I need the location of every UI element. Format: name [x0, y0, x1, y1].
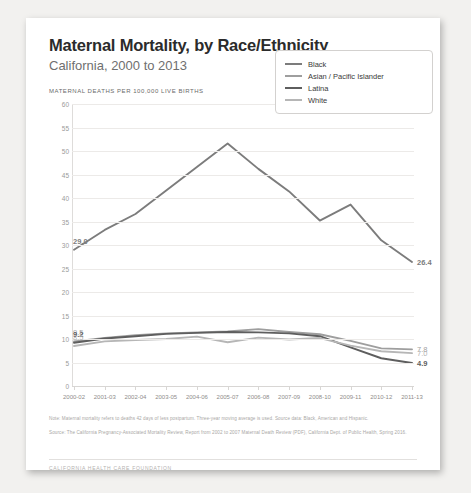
y-axis-tick-label: 45	[47, 171, 69, 178]
gridline	[72, 128, 414, 129]
x-axis-tick-label: 2001-03	[94, 394, 116, 400]
legend-item[interactable]: Asian / Pacific Islander	[285, 70, 423, 82]
x-axis-tick	[135, 386, 136, 390]
footnote-2: Source: The California Pregnancy-Associa…	[49, 430, 407, 435]
page-subtitle: California, 2000 to 2013	[49, 58, 187, 73]
gridline	[72, 386, 414, 387]
legend-swatch-icon	[285, 99, 302, 101]
brand-label: CALIFORNIA HEALTH CARE FOUNDATION	[49, 465, 172, 471]
x-axis-tick-label: 2010-12	[370, 394, 392, 400]
x-axis-tick-label: 2002-04	[124, 394, 146, 400]
legend-label: Asian / Pacific Islander	[308, 72, 384, 81]
x-axis-tick	[228, 386, 229, 390]
y-axis-tick-label: 55	[47, 124, 69, 131]
x-axis-tick-label: 2000-02	[63, 394, 85, 400]
x-axis-tick	[197, 386, 198, 390]
y-axis-tick-label: 50	[47, 148, 69, 155]
x-axis-tick	[289, 386, 290, 390]
y-axis-tick-label: 5	[47, 359, 69, 366]
y-axis-tick-label: 15	[47, 312, 69, 319]
gridline	[72, 363, 414, 364]
x-axis-tick	[74, 386, 75, 390]
series-end-value: 4.9	[417, 359, 427, 368]
series-end-value: 26.4	[417, 258, 432, 267]
y-axis-tick-label: 0	[47, 383, 69, 390]
gridline	[72, 339, 414, 340]
gridline	[72, 316, 414, 317]
x-axis-tick-label: 2003-05	[155, 394, 177, 400]
x-axis-tick	[320, 386, 321, 390]
x-axis-tick-label: 2006-08	[247, 394, 269, 400]
legend-item[interactable]: Black	[285, 58, 423, 70]
x-axis-tick	[351, 386, 352, 390]
series-start-value: 29.0	[73, 237, 88, 246]
chart-card: Maternal Mortality, by Race/Ethnicity Ca…	[26, 18, 440, 470]
footnote-1: Note: Maternal mortality refers to death…	[49, 416, 368, 421]
footer-divider	[49, 459, 417, 460]
gridline	[72, 245, 414, 246]
y-axis-tick-label: 25	[47, 265, 69, 272]
gridline	[72, 151, 414, 152]
x-axis-tick	[381, 386, 382, 390]
legend-swatch-icon	[285, 75, 302, 77]
y-axis-tick-label: 10	[47, 336, 69, 343]
series-start-value: 8.5	[73, 333, 83, 342]
gridline	[72, 198, 414, 199]
chart-card-inner: Maternal Mortality, by Race/Ethnicity Ca…	[26, 18, 440, 470]
x-axis-tick	[166, 386, 167, 390]
x-axis-tick	[258, 386, 259, 390]
y-axis-tick-label: 30	[47, 242, 69, 249]
x-axis-tick-label: 2009-11	[340, 394, 362, 400]
chart-plot-area: 0510152025303540455055602000-022001-0320…	[72, 104, 414, 386]
legend-swatch-icon	[285, 87, 302, 89]
gridline	[72, 292, 414, 293]
legend-swatch-icon	[285, 63, 302, 65]
legend-label: White	[308, 96, 327, 105]
legend-label: Latina	[308, 84, 328, 93]
x-axis-tick	[412, 386, 413, 390]
y-axis-tick-label: 35	[47, 218, 69, 225]
series-end-value: 7.0	[417, 349, 427, 358]
gridline	[72, 269, 414, 270]
gridline	[72, 222, 414, 223]
gridline	[72, 175, 414, 176]
x-axis-tick-label: 2005-07	[217, 394, 239, 400]
y-axis-tick-label: 40	[47, 195, 69, 202]
chart-legend: BlackAsian / Pacific IslanderLatinaWhite	[275, 50, 433, 114]
x-axis-tick-label: 2004-06	[186, 394, 208, 400]
x-axis-tick-label: 2011-13	[401, 394, 423, 400]
legend-label: Black	[308, 60, 326, 69]
legend-item[interactable]: White	[285, 94, 423, 106]
y-axis-tick-label: 60	[47, 101, 69, 108]
x-axis-tick-label: 2008-10	[309, 394, 331, 400]
y-axis-tick-label: 20	[47, 289, 69, 296]
legend-item[interactable]: Latina	[285, 82, 423, 94]
x-axis-tick	[105, 386, 106, 390]
y-axis-unit-label: MATERNAL DEATHS PER 100,000 LIVE BIRTHS	[49, 88, 204, 94]
x-axis-tick-label: 2007-09	[278, 394, 300, 400]
